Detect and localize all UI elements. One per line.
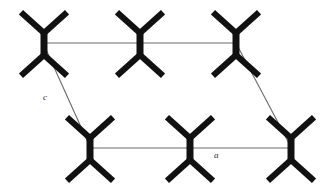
bond-upper-right: [44, 12, 67, 33]
bond-upper-left: [167, 117, 190, 138]
bond-lower-right: [190, 160, 213, 181]
bond-lower-left: [213, 55, 236, 76]
bond-upper-left: [213, 12, 236, 33]
bond-lower-left: [268, 160, 291, 181]
bond-upper-right: [291, 117, 314, 138]
bond-lower-right: [90, 160, 113, 181]
molecule: [21, 12, 67, 75]
bond-lower-right: [291, 160, 314, 181]
bond-upper-left: [21, 12, 44, 33]
molecule-group: [21, 12, 314, 180]
bond-lower-right: [44, 55, 67, 76]
bond-upper-right: [236, 12, 259, 33]
bond-upper-left: [268, 117, 291, 138]
bond-upper-left: [117, 12, 140, 33]
molecule: [67, 117, 113, 180]
bond-lower-left: [167, 160, 190, 181]
molecule: [117, 12, 163, 75]
molecule: [213, 12, 259, 75]
bond-lower-right: [140, 55, 163, 76]
bond-lower-left: [21, 55, 44, 76]
bond-upper-right: [190, 117, 213, 138]
molecule: [268, 117, 314, 180]
crystal-structure-canvas: ca: [0, 0, 334, 193]
bond-lower-left: [67, 160, 90, 181]
bond-lower-right: [236, 55, 259, 76]
axis-label-a: a: [214, 150, 219, 160]
bond-upper-right: [140, 12, 163, 33]
crystal-packing-figure: ca: [0, 0, 334, 193]
axis-label-c: c: [43, 92, 47, 102]
bond-upper-right: [90, 117, 113, 138]
bond-lower-left: [117, 55, 140, 76]
molecule: [167, 117, 213, 180]
